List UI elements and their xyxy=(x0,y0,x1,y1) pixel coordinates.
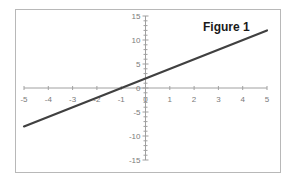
x-tick-label: 2 xyxy=(192,95,197,104)
x-tick-label: 5 xyxy=(265,95,270,104)
x-tick-label: 4 xyxy=(240,95,245,104)
x-tick-label: 1 xyxy=(168,95,173,104)
y-tick-label: 5 xyxy=(136,60,141,69)
y-tick-label: -10 xyxy=(129,132,141,141)
x-tick-label: 3 xyxy=(216,95,221,104)
y-tick-label: -5 xyxy=(133,108,141,117)
x-tick-label: -5 xyxy=(20,95,28,104)
y-tick-label: 15 xyxy=(132,12,141,21)
y-tick-label: -15 xyxy=(129,156,141,165)
y-tick-label: 0 xyxy=(136,84,141,93)
x-tick-label: -3 xyxy=(69,95,77,104)
x-tick-label: -4 xyxy=(45,95,53,104)
chart-title: Figure 1 xyxy=(203,20,250,34)
y-tick-label: 10 xyxy=(132,36,141,45)
x-tick-label: -1 xyxy=(118,95,126,104)
line-chart: -5-4-3-2-1012345 -15-10-5051015 Figure 1 xyxy=(0,0,294,184)
x-axis-ticks: -5-4-3-2-1012345 xyxy=(20,86,269,104)
